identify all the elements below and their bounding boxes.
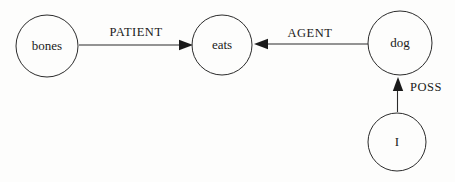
edge-patient: PATIENT (79, 25, 193, 50)
agent-edge-label: AGENT (288, 26, 333, 40)
diagram-canvas: PATIENT AGENT POSS bones eats dog (0, 0, 455, 182)
i-node-label: I (395, 134, 399, 149)
node-eats: eats (192, 15, 252, 75)
node-bones: bones (16, 15, 78, 77)
edge-poss: POSS (393, 77, 442, 112)
poss-arrowhead-icon (393, 77, 403, 91)
node-i: I (368, 113, 426, 171)
poss-edge-label: POSS (410, 80, 442, 94)
edge-agent: AGENT (254, 26, 368, 49)
patient-arrowhead-icon (179, 40, 193, 50)
agent-arrowhead-icon (254, 39, 268, 49)
eats-node-label: eats (212, 37, 232, 52)
node-dog: dog (368, 11, 432, 75)
dog-node-label: dog (390, 35, 410, 50)
semantic-network-diagram: PATIENT AGENT POSS bones eats dog (0, 0, 455, 182)
patient-edge-label: PATIENT (109, 25, 162, 39)
bones-node-label: bones (32, 38, 62, 53)
